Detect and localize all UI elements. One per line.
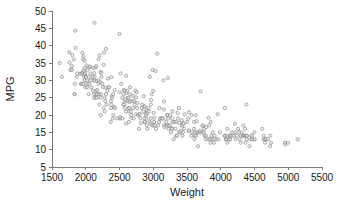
data-point bbox=[183, 113, 186, 116]
data-point bbox=[270, 141, 273, 144]
data-point bbox=[226, 141, 229, 144]
data-point bbox=[170, 117, 173, 120]
data-point bbox=[218, 131, 221, 134]
data-point bbox=[186, 120, 189, 123]
data-point bbox=[162, 108, 165, 111]
data-point bbox=[86, 79, 89, 82]
data-point bbox=[233, 122, 236, 125]
data-point bbox=[89, 65, 92, 68]
data-point bbox=[229, 138, 232, 141]
data-point bbox=[98, 54, 101, 57]
data-point bbox=[223, 106, 226, 109]
data-point bbox=[181, 134, 184, 137]
data-point bbox=[118, 32, 121, 35]
data-point bbox=[74, 46, 77, 49]
data-point bbox=[171, 110, 174, 113]
data-point bbox=[152, 120, 155, 123]
data-point bbox=[187, 111, 190, 114]
data-point bbox=[137, 127, 140, 130]
data-point bbox=[208, 124, 211, 127]
data-point bbox=[199, 90, 202, 93]
data-point bbox=[95, 96, 98, 99]
data-point bbox=[83, 59, 86, 62]
y-tick-label: 15 bbox=[35, 127, 47, 138]
x-tick-label: 4000 bbox=[210, 172, 233, 183]
data-point bbox=[262, 134, 265, 137]
data-point bbox=[136, 101, 139, 104]
y-tick-label: 20 bbox=[35, 110, 47, 121]
data-point bbox=[93, 21, 96, 24]
data-point bbox=[99, 113, 102, 116]
data-point bbox=[108, 86, 111, 89]
data-point bbox=[226, 127, 229, 130]
data-point bbox=[196, 145, 199, 148]
y-tick-label: 35 bbox=[35, 58, 47, 69]
data-point bbox=[152, 89, 155, 92]
data-point bbox=[166, 76, 169, 79]
data-point bbox=[195, 120, 198, 123]
data-point bbox=[87, 75, 90, 78]
data-point bbox=[194, 114, 197, 117]
data-point bbox=[74, 29, 77, 32]
data-point bbox=[103, 110, 106, 113]
data-point bbox=[150, 93, 153, 96]
data-point bbox=[143, 120, 146, 123]
data-point bbox=[109, 100, 112, 103]
data-point bbox=[204, 134, 207, 137]
data-point bbox=[212, 138, 215, 141]
data-point bbox=[132, 106, 135, 109]
data-point bbox=[135, 91, 138, 94]
x-tick-label: 3000 bbox=[142, 172, 165, 183]
data-point bbox=[245, 134, 248, 137]
data-point bbox=[182, 122, 185, 125]
data-point bbox=[209, 120, 212, 123]
data-point bbox=[147, 106, 150, 109]
data-point bbox=[83, 72, 86, 75]
data-point bbox=[88, 82, 91, 85]
data-point bbox=[156, 124, 159, 127]
data-point bbox=[99, 96, 102, 99]
data-point bbox=[178, 121, 181, 124]
data-point bbox=[146, 127, 149, 130]
data-point bbox=[102, 106, 105, 109]
data-point bbox=[190, 131, 193, 134]
data-point bbox=[175, 134, 178, 137]
data-point bbox=[250, 134, 253, 137]
data-point bbox=[143, 105, 146, 108]
data-point bbox=[158, 106, 161, 109]
data-point bbox=[153, 124, 156, 127]
data-point bbox=[156, 52, 159, 55]
data-point bbox=[248, 145, 251, 148]
data-point bbox=[123, 106, 126, 109]
data-point bbox=[139, 117, 142, 120]
data-points-layer bbox=[58, 21, 299, 148]
data-point bbox=[97, 58, 100, 61]
data-point bbox=[102, 51, 105, 54]
data-point bbox=[121, 117, 124, 120]
data-point bbox=[98, 103, 101, 106]
data-point bbox=[134, 96, 137, 99]
data-point bbox=[245, 103, 248, 106]
data-point bbox=[111, 96, 114, 99]
y-tick-label: 50 bbox=[35, 6, 47, 17]
data-point bbox=[176, 117, 179, 120]
data-point bbox=[112, 113, 115, 116]
x-tick-label: 5500 bbox=[311, 172, 334, 183]
x-tick-label: 2000 bbox=[75, 172, 98, 183]
data-point bbox=[164, 120, 167, 123]
data-point bbox=[147, 110, 150, 113]
data-point bbox=[154, 69, 157, 72]
data-point bbox=[111, 93, 114, 96]
data-point bbox=[211, 131, 214, 134]
x-tick-label: 2500 bbox=[108, 172, 131, 183]
data-point bbox=[106, 77, 109, 80]
data-point bbox=[243, 127, 246, 130]
data-point bbox=[239, 141, 242, 144]
data-point bbox=[193, 138, 196, 141]
data-point bbox=[149, 103, 152, 106]
data-point bbox=[73, 93, 76, 96]
data-point bbox=[169, 131, 172, 134]
data-point bbox=[93, 71, 96, 74]
data-point bbox=[169, 113, 172, 116]
data-point bbox=[171, 127, 174, 130]
